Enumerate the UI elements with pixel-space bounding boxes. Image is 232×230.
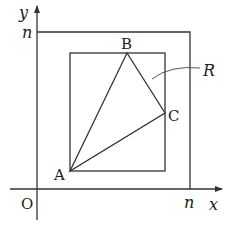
point-b-label: B: [121, 35, 132, 53]
point-c-label: C: [168, 107, 179, 125]
region-r-label: R: [202, 61, 215, 80]
triangle-abc: [70, 53, 165, 171]
point-a-label: A: [53, 166, 65, 184]
y-tick-label-n: n: [22, 23, 32, 42]
x-tick-label-n: n: [184, 193, 194, 212]
y-axis-label: y: [18, 3, 29, 22]
origin-label: O: [21, 195, 33, 213]
region-leader-line: [152, 67, 200, 79]
inner-rectangle: [70, 53, 165, 171]
x-axis-label: x: [209, 195, 218, 214]
diagram-canvas: y n O n x B C A R: [0, 0, 232, 230]
